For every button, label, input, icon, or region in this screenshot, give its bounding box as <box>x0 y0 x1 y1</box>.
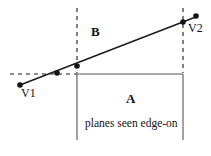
sight-line <box>20 17 197 86</box>
region-label-b: B <box>91 25 100 38</box>
vertex-label-v1: V1 <box>21 87 36 99</box>
figure-canvas <box>0 0 211 156</box>
left-plane-intersection-point <box>74 63 80 69</box>
horizon-intersection-point <box>54 70 60 76</box>
right-plane-intersection-point <box>180 19 186 25</box>
v2-point <box>193 13 199 19</box>
region-label-a: A <box>126 92 135 105</box>
vertex-label-v2: V2 <box>188 22 203 34</box>
plane-geometry-figure: B A V1 V2 planes seen edge-on <box>0 0 211 156</box>
figure-caption: planes seen edge-on <box>85 118 178 130</box>
